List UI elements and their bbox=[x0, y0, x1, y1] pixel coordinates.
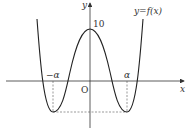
x-axis-label: x bbox=[180, 84, 185, 94]
graph-svg: y x O 10 −α α y=f(x) bbox=[0, 0, 188, 133]
origin-label: O bbox=[81, 85, 88, 95]
alpha-label: α bbox=[124, 70, 130, 80]
function-label: y=f(x) bbox=[133, 6, 163, 16]
function-graph: y x O 10 −α α y=f(x) bbox=[0, 0, 188, 133]
y-axis-label: y bbox=[81, 0, 88, 10]
neg-alpha-label: −α bbox=[46, 70, 60, 80]
y-intercept-label: 10 bbox=[93, 19, 105, 29]
